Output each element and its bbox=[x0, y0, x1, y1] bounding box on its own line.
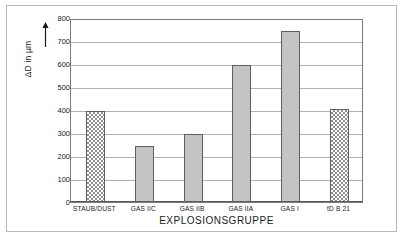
y-tick-label-500: 500 bbox=[44, 84, 70, 92]
plot-area bbox=[70, 19, 363, 203]
y-tick-label-100: 100 bbox=[44, 176, 70, 184]
x-tick-label-5: tD B 21 bbox=[327, 205, 350, 212]
bar-gas-i bbox=[281, 31, 300, 202]
y-tick-label-0: 0 bbox=[44, 199, 70, 207]
bar-gas-iia bbox=[232, 65, 251, 202]
y-tick-label-700: 700 bbox=[44, 38, 70, 46]
x-tick-label-0: STAUB/DUST bbox=[73, 205, 116, 212]
y-tick-label-600: 600 bbox=[44, 61, 70, 69]
chart-figure: ΔD in µm 800 700 600 500 400 300 200 100… bbox=[0, 0, 404, 239]
bar-gas-iib bbox=[184, 134, 203, 202]
x-tick-label-4: GAS I bbox=[281, 205, 299, 212]
y-tick-label-400: 400 bbox=[44, 107, 70, 115]
bar-gas-iic bbox=[135, 146, 154, 202]
y-axis-title: ΔD in µm bbox=[23, 19, 33, 99]
bar-staub-dust bbox=[86, 111, 105, 202]
y-tick-label-800: 800 bbox=[44, 15, 70, 23]
x-tick-label-1: GAS IIC bbox=[131, 205, 156, 212]
bar-td-b-21 bbox=[330, 109, 349, 202]
y-axis-ticks: 800 700 600 500 400 300 200 100 0 bbox=[38, 19, 70, 203]
x-tick-label-3: GAS IIA bbox=[228, 205, 253, 212]
bar-series bbox=[71, 20, 362, 202]
x-axis-title: EXPLOSIONSGRUPPE bbox=[70, 215, 363, 226]
y-tick-label-300: 300 bbox=[44, 130, 70, 138]
x-tick-label-2: GAS IIB bbox=[180, 205, 205, 212]
y-tick-label-200: 200 bbox=[44, 153, 70, 161]
